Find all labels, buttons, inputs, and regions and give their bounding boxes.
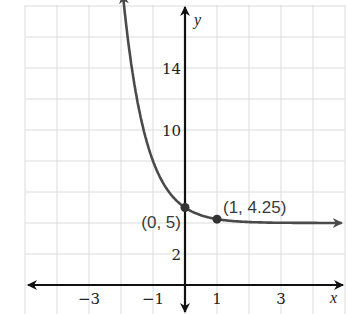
y-tick-label: 10: [162, 122, 181, 140]
curve: [123, 0, 342, 223]
x-axis-label: x: [329, 289, 337, 306]
exponential-curve: [123, 0, 342, 223]
data-point: [213, 215, 222, 224]
y-tick-label: 14: [162, 60, 181, 78]
data-point: [181, 203, 190, 212]
x-tick-label: −1: [142, 290, 164, 308]
exponential-graph: −3−11314102 (0, 5)(1, 4.25) x y: [0, 0, 346, 314]
x-tick-label: 3: [276, 290, 286, 308]
points: (0, 5)(1, 4.25): [141, 198, 286, 231]
point-label: (1, 4.25): [223, 198, 286, 217]
y-axis-label: y: [192, 11, 202, 29]
x-tick-label: 1: [212, 290, 222, 308]
point-label: (0, 5): [141, 213, 181, 232]
y-tick-label: 2: [171, 246, 181, 264]
x-tick-label: −3: [78, 290, 100, 308]
tick-labels: −3−11314102: [78, 60, 286, 308]
axes: [28, 7, 343, 312]
